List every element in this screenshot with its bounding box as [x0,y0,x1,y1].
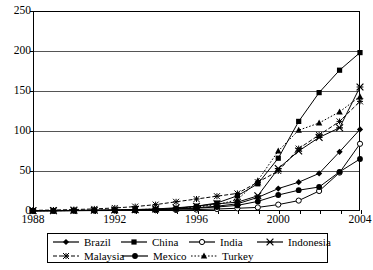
y-tick-label: 200 [14,45,31,57]
data-point-triangle [357,93,363,99]
legend-label: Brazil [81,236,113,248]
series-turkey [30,93,363,213]
data-point-diamond [296,179,302,185]
data-point-circle-filled [316,184,322,190]
data-point-square [276,156,281,161]
legend-marker-mexico [120,250,150,262]
data-point-circle-open [357,141,362,146]
series-layer [33,11,360,211]
data-point-circle-filled [132,253,138,259]
data-point-square [357,50,362,55]
series-malaysia [30,98,363,213]
data-point-x-star [357,84,364,91]
legend-label: Mexico [150,250,189,262]
data-point-circle-filled [357,156,363,162]
legend-item-malaysia[interactable]: Malaysia [51,250,120,262]
legend-label: Turkey [219,250,255,262]
data-point-circle-filled [234,203,240,209]
x-tick-label: 1996 [185,213,208,226]
data-point-circle-open [276,202,281,207]
legend-marker-turkey [189,250,219,262]
data-point-star-small [275,168,281,174]
legend-label: Indonesia [285,236,333,248]
data-point-circle-filled [296,187,302,193]
data-point-star-small [194,196,200,202]
data-point-square [131,239,136,244]
legend-marker-brazil [51,236,81,248]
data-point-circle-filled [275,192,281,198]
series-china [30,50,362,213]
x-tick-label: 2000 [267,213,290,226]
series-india [30,141,362,213]
data-point-diamond [275,186,281,192]
line-chart: 050100150200250 19881992199620002004 Bra… [0,0,373,270]
y-axis: 050100150200250 [0,11,31,211]
data-point-circle-filled [255,199,261,205]
data-point-star-small [357,98,363,104]
legend-row: MalaysiaMexicoTurkey [51,249,324,263]
x-tick-label: 1988 [22,213,45,226]
data-point-circle-open [199,239,204,244]
data-point-x-star [267,239,274,246]
legend-row: BrazilChinaIndiaIndonesia [51,235,324,249]
data-point-star-small [316,132,322,138]
data-point-star-small [173,199,179,205]
data-point-star-small [63,253,69,259]
data-point-diamond [63,239,69,245]
x-axis: 19881992199620002004 [33,213,360,229]
data-point-triangle [316,120,322,126]
legend-marker-malaysia [51,250,81,262]
data-point-x-star [336,124,343,131]
data-point-star-small [214,193,220,199]
data-point-square [317,90,322,95]
legend-marker-india [187,236,217,248]
legend-item-india[interactable]: India [187,236,255,248]
y-tick-label: 100 [14,125,31,137]
legend-label: India [217,236,245,248]
series-indonesia [30,84,364,215]
data-point-star-small [337,118,343,124]
x-tick-label: 1992 [103,213,126,226]
y-tick-label: 250 [14,5,31,17]
legend-item-indonesia[interactable]: Indonesia [255,236,324,248]
data-point-circle-filled [337,169,343,175]
data-point-circle-open [296,198,301,203]
legend-item-mexico[interactable]: Mexico [120,250,189,262]
legend-label: China [149,236,180,248]
legend-item-brazil[interactable]: Brazil [51,236,119,248]
legend-item-turkey[interactable]: Turkey [189,250,258,262]
data-point-triangle [336,108,342,114]
x-tick-label: 2004 [349,213,372,226]
data-point-square [296,119,301,124]
legend-marker-indonesia [255,236,285,248]
chart-legend: BrazilChinaIndiaIndonesiaMalaysiaMexicoT… [47,233,328,263]
data-point-square [337,68,342,73]
data-point-star-small [296,146,302,152]
y-tick-label: 150 [14,85,31,97]
legend-marker-china [119,236,149,248]
legend-item-china[interactable]: China [119,236,187,248]
data-point-circle-open [255,205,260,210]
data-point-star-small [234,190,240,196]
